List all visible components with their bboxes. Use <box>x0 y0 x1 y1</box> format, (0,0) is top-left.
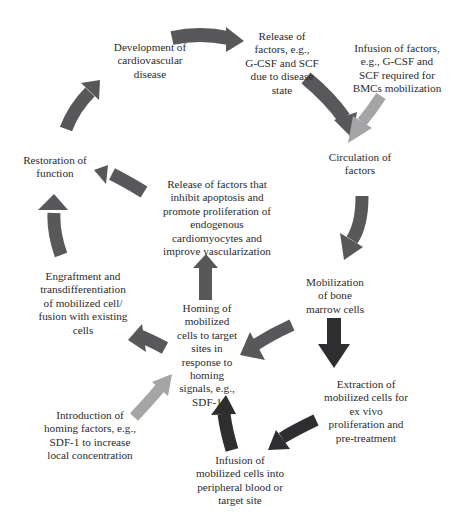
arrow-infusion-factors-to-circulation <box>348 96 381 143</box>
node-infusion-factors-line: BMCs mobilization <box>340 82 454 95</box>
node-release-inhibit: Release of factors that inhibit apoptosi… <box>152 178 282 258</box>
node-release-disease-line: due to disease <box>232 70 332 83</box>
node-extraction-line: ex vivo <box>308 405 424 418</box>
node-engraftment-line: cells <box>28 324 138 337</box>
node-extraction-line: Extraction of <box>308 378 424 391</box>
node-release-inhibit-line: promote proliferation of <box>152 205 282 218</box>
node-introduction-homing-line: Introduction of <box>30 409 150 422</box>
node-engraftment-line: transdifferentiation <box>28 283 138 296</box>
node-restoration: Restoration of function <box>10 154 100 181</box>
node-release-disease: Release of factors, e.g., G-CSF and SCF … <box>232 30 332 97</box>
node-infusion-cells-line: target site <box>180 494 300 507</box>
node-infusion-cells: Infusion of mobilized cells into periphe… <box>180 454 300 508</box>
node-homing-line: sites in <box>165 342 249 355</box>
arrow-engraftment-to-restoration <box>38 194 68 255</box>
node-homing-line: response to <box>165 356 249 369</box>
node-release-inhibit-line: cardiomyocytes and <box>152 232 282 245</box>
node-extraction-line: pre-treatment <box>308 432 424 445</box>
arrow-restoration-to-development <box>66 80 100 129</box>
node-homing-line: signals, e.g., <box>165 382 249 395</box>
node-introduction-homing-line: local concentration <box>30 449 150 462</box>
node-homing-line: cells to target <box>165 329 249 342</box>
node-homing-line: mobilized <box>165 315 249 328</box>
node-development-line: disease <box>90 68 210 81</box>
node-mobilization-line: Mobilization <box>290 276 380 289</box>
node-release-disease-line: G-CSF and SCF <box>232 57 332 70</box>
node-development-line: cardiovascular <box>90 54 210 67</box>
node-release-disease-line: factors, e.g., <box>232 43 332 56</box>
node-infusion-factors-line: SCF required for <box>340 69 454 82</box>
node-introduction-homing-line: SDF-1 to increase <box>30 436 150 449</box>
node-engraftment-line: fusion with existing <box>28 310 138 323</box>
node-infusion-cells-line: peripheral blood or <box>180 481 300 494</box>
arrow-mobilization-to-extraction <box>318 318 350 368</box>
node-homing-line: Homing of <box>165 302 249 315</box>
node-engraftment-line: Engraftment and <box>28 270 138 283</box>
node-release-disease-line: state <box>232 84 332 97</box>
node-infusion-factors-line: Infusion of factors, <box>340 42 454 55</box>
node-release-inhibit-line: Release of factors that <box>152 178 282 191</box>
node-release-inhibit-line: inhibit apoptosis and <box>152 191 282 204</box>
node-extraction: Extraction of mobilized cells for ex viv… <box>308 378 424 445</box>
node-infusion-cells-line: Infusion of <box>180 454 300 467</box>
node-engraftment: Engraftment and transdifferentiation of … <box>28 270 138 337</box>
node-mobilization: Mobilization of bone marrow cells <box>290 276 380 316</box>
arrow-circulation-to-mobilization <box>340 196 363 260</box>
cycle-diagram: Development of cardiovascular disease Re… <box>0 0 454 521</box>
node-circulation-line: Circulation of <box>315 151 405 164</box>
node-infusion-factors-line: e.g., G-CSF and <box>340 55 454 68</box>
node-extraction-line: mobilized cells for <box>308 391 424 404</box>
node-mobilization-line: marrow cells <box>290 303 380 316</box>
node-release-inhibit-line: endogenous <box>152 218 282 231</box>
node-release-inhibit-line: improve vascularization <box>152 245 282 258</box>
node-introduction-homing-line: homing factors, e.g., <box>30 422 150 435</box>
node-infusion-factors: Infusion of factors, e.g., G-CSF and SCF… <box>340 42 454 96</box>
node-homing: Homing of mobilized cells to target site… <box>165 302 249 409</box>
node-extraction-line: proliferation and <box>308 418 424 431</box>
node-homing-line: SDF-1 <box>165 396 249 409</box>
node-introduction-homing: Introduction of homing factors, e.g., SD… <box>30 409 150 463</box>
node-circulation-line: factors <box>315 164 405 177</box>
arrow-release-inhibit-to-restoration <box>94 165 144 192</box>
node-release-disease-line: Release of <box>232 30 332 43</box>
node-development-line: Development of <box>90 41 210 54</box>
node-restoration-line: function <box>10 167 100 180</box>
node-circulation: Circulation of factors <box>315 151 405 178</box>
node-homing-line: homing <box>165 369 249 382</box>
arrow-homing-to-release-inhibit <box>193 254 218 300</box>
node-mobilization-line: of bone <box>290 289 380 302</box>
node-engraftment-line: of mobilized cell/ <box>28 297 138 310</box>
node-infusion-cells-line: mobilized cells into <box>180 467 300 480</box>
node-restoration-line: Restoration of <box>10 154 100 167</box>
node-development: Development of cardiovascular disease <box>90 41 210 81</box>
